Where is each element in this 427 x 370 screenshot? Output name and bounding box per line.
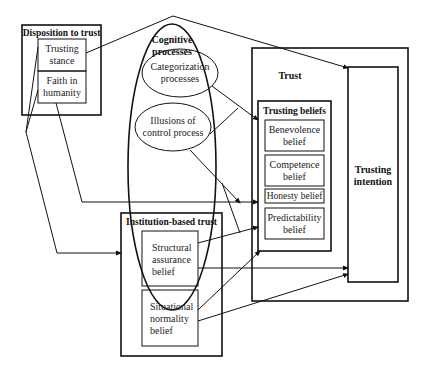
arrow-structural-to-beliefs bbox=[198, 227, 258, 243]
illusions-line1: Illusions of bbox=[135, 115, 211, 127]
predictability-line2: belief bbox=[265, 224, 324, 236]
competence-line2: belief bbox=[265, 171, 324, 183]
trusting-beliefs-title: Trusting beliefs bbox=[258, 105, 331, 117]
trusting-stance-label: Trusting stance bbox=[38, 43, 86, 67]
line-disposition-branch bbox=[26, 90, 38, 132]
categorization-line1: Categorization bbox=[142, 61, 218, 73]
predictability-label: Predictability belief bbox=[265, 212, 324, 236]
structural-line3: belief bbox=[152, 266, 198, 278]
institution-title: Institution-based trust bbox=[121, 216, 222, 228]
faith-line2: humanity bbox=[38, 87, 86, 99]
situational-line1: Situational bbox=[150, 301, 198, 313]
illusions-label: Illusions of control process bbox=[135, 115, 211, 139]
trust-title: Trust bbox=[270, 70, 310, 82]
faith-line1: Faith in bbox=[38, 75, 86, 87]
trusting-stance-line2: stance bbox=[38, 55, 86, 67]
trusting-stance-line1: Trusting bbox=[38, 43, 86, 55]
illusions-line2: control process bbox=[135, 127, 211, 139]
categorization-line2: processes bbox=[142, 73, 218, 85]
competence-label: Competence belief bbox=[265, 159, 324, 183]
faith-humanity-label: Faith in humanity bbox=[38, 75, 86, 99]
intention-line2: intention bbox=[348, 176, 398, 188]
situational-line3: belief bbox=[150, 325, 198, 337]
intention-line1: Trusting bbox=[348, 164, 398, 176]
arrow-situational-to-beliefs bbox=[198, 251, 260, 310]
disposition-title: Disposition to trust bbox=[22, 27, 101, 39]
trusting-intention-label: Trusting intention bbox=[348, 164, 398, 188]
arrow-situational-to-intention bbox=[198, 274, 348, 321]
situational-normality-label: Situational normality belief bbox=[150, 301, 198, 337]
structural-assurance-label: Structural assurance belief bbox=[152, 242, 198, 278]
categorization-label: Categorization processes bbox=[142, 61, 218, 85]
cognitive-title-line2: processes bbox=[132, 46, 212, 58]
cognitive-title: Cognitive processes bbox=[132, 34, 212, 58]
line-illusions-branch bbox=[222, 183, 240, 233]
arrow-categorization-to-beliefs bbox=[212, 86, 258, 120]
benevolence-line2: belief bbox=[265, 136, 324, 148]
cognitive-title-line1: Cognitive bbox=[132, 34, 212, 46]
benevolence-label: Benevolence belief bbox=[265, 124, 324, 148]
situational-line2: normality bbox=[150, 313, 198, 325]
competence-line1: Competence bbox=[265, 159, 324, 171]
structural-line2: assurance bbox=[152, 254, 198, 266]
structural-line1: Structural bbox=[152, 242, 198, 254]
benevolence-line1: Benevolence bbox=[265, 124, 324, 136]
honesty-label: Honesty belief bbox=[265, 190, 324, 202]
predictability-line1: Predictability bbox=[265, 212, 324, 224]
